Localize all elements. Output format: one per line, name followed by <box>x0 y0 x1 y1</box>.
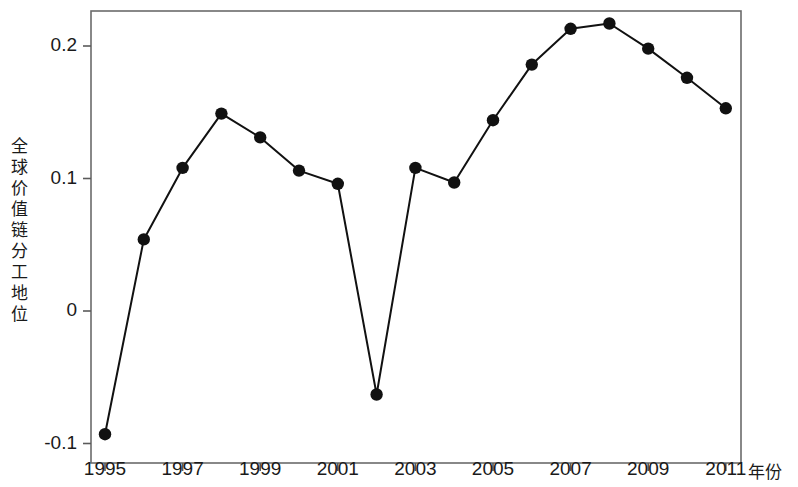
data-point-marker <box>99 428 111 440</box>
x-tick-label: 1999 <box>230 458 290 480</box>
data-point-marker <box>448 176 460 188</box>
x-tick-label: 2003 <box>385 458 445 480</box>
data-point-marker <box>642 42 654 54</box>
chart-figure: 全 球 价 值 链 分 工 地 位 -0.100.10.2 1995199719… <box>0 0 798 487</box>
x-axis-title: 年份 <box>748 458 782 483</box>
data-point-marker <box>526 58 538 70</box>
y-tick-label: 0.1 <box>25 167 77 189</box>
x-tick-label: 2005 <box>463 458 523 480</box>
data-point-marker <box>409 162 421 174</box>
y-axis-tick-marks <box>83 46 91 444</box>
data-point-marker <box>215 107 227 119</box>
data-point-marker <box>370 388 382 400</box>
data-point-marker <box>254 131 266 143</box>
data-point-marker <box>564 23 576 35</box>
data-point-marker <box>138 233 150 245</box>
plot-canvas <box>0 0 798 487</box>
x-tick-label: 1997 <box>153 458 213 480</box>
y-tick-label: -0.1 <box>25 432 77 454</box>
data-point-marker <box>681 72 693 84</box>
data-point-marker <box>603 17 615 29</box>
x-tick-label: 2007 <box>541 458 601 480</box>
y-tick-label: 0 <box>25 299 77 321</box>
data-point-marker <box>176 162 188 174</box>
x-tick-label: 1995 <box>75 458 135 480</box>
x-tick-label: 2011 <box>696 458 756 480</box>
data-point-marker <box>293 164 305 176</box>
x-tick-label: 2009 <box>618 458 678 480</box>
data-point-marker <box>332 178 344 190</box>
x-tick-label: 2001 <box>308 458 368 480</box>
y-tick-label: 0.2 <box>25 34 77 56</box>
plot-frame <box>91 11 741 463</box>
data-point-marker <box>720 102 732 114</box>
data-point-marker <box>487 114 499 126</box>
